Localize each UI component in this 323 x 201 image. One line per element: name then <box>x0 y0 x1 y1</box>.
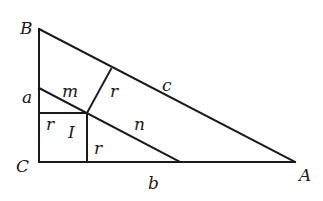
radius-label-left: r <box>46 114 55 134</box>
vertex-label-a: A <box>297 165 311 185</box>
side-label-b: b <box>148 173 159 193</box>
vertex-label-b: B <box>19 18 33 38</box>
segment-label-m: m <box>62 81 78 101</box>
incenter-label-i: I <box>67 122 75 142</box>
segment-label-n: n <box>134 114 145 134</box>
radius-label-hyp: r <box>110 81 119 101</box>
side-label-a: a <box>22 87 32 107</box>
side-label-c: c <box>162 75 172 95</box>
radius-label-bottom: r <box>94 138 103 158</box>
vertex-label-c: C <box>16 156 29 176</box>
triangle-diagram: B C A a b c m n r r r I <box>0 0 323 201</box>
radius-to-hypotenuse <box>87 69 111 113</box>
